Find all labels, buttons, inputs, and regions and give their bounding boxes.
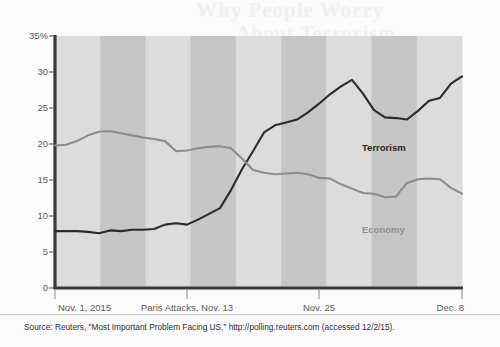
x-tick-label: Dec. 8: [0, 302, 464, 313]
source-note: Source: Reuters, "Most Important Problem…: [24, 322, 395, 332]
y-tick-label: 20: [14, 138, 48, 149]
y-tick-label: 5: [14, 246, 48, 257]
y-tick-label: 30: [14, 66, 48, 77]
line-chart-plot: [0, 0, 500, 347]
background-bands: [55, 36, 463, 288]
chart-figure: Why People Worry About Terrorism 0510152…: [0, 0, 500, 347]
y-tick-label: 10: [14, 210, 48, 221]
series-label-terrorism: Terrorism: [362, 142, 406, 153]
y-tick-label: 0: [14, 282, 48, 293]
y-tick-label: 15: [14, 174, 48, 185]
y-tick-label: 25: [14, 102, 48, 113]
source-divider: [0, 314, 500, 315]
series-label-economy: Economy: [362, 224, 405, 235]
y-tick-label: 35%: [14, 30, 48, 41]
